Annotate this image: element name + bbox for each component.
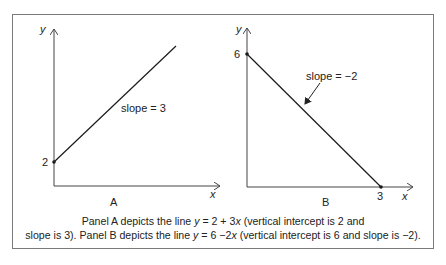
panel-b-x-label: x bbox=[401, 190, 408, 202]
caption-line-1: Panel A depicts the line y = 2 + 3x (ver… bbox=[12, 214, 434, 228]
panel-b-slope-arrow bbox=[305, 83, 320, 104]
panel-b-y-intercept-point bbox=[245, 52, 249, 56]
panel-b: y x 6 3 slope = −2 B bbox=[234, 23, 413, 208]
panel-b-intercept-label: 6 bbox=[234, 48, 240, 60]
panel-a-intercept-label: 2 bbox=[42, 156, 48, 168]
panel-a-title: A bbox=[110, 196, 118, 208]
panel-b-x-intercept-label: 3 bbox=[377, 190, 383, 202]
panel-b-slope-label: slope = −2 bbox=[306, 70, 357, 82]
panel-a-slope-label: slope = 3 bbox=[121, 102, 166, 114]
panel-b-title: B bbox=[322, 196, 329, 208]
figure-caption: Panel A depicts the line y = 2 + 3x (ver… bbox=[12, 214, 434, 242]
panel-a-intercept-point bbox=[52, 160, 56, 164]
panel-a-x-label: x bbox=[209, 188, 216, 200]
panel-b-x-intercept-point bbox=[379, 185, 383, 189]
panel-a-y-label: y bbox=[39, 23, 47, 35]
panel-b-y-label: y bbox=[235, 23, 243, 35]
panel-a: y x 2 slope = 3 A bbox=[39, 23, 220, 208]
caption-line-2: slope is 3). Panel B depicts the line y … bbox=[12, 228, 434, 242]
